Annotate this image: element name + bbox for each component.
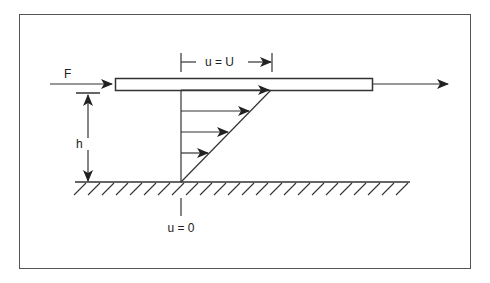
diagram-frame bbox=[20, 15, 471, 269]
diagram-canvas: F h u = U bbox=[0, 0, 490, 283]
h-label: h bbox=[76, 137, 83, 151]
velocity-profile bbox=[181, 90, 271, 182]
moving-plate bbox=[116, 79, 373, 91]
force-label: F bbox=[64, 67, 71, 81]
top-velocity-label: u = U bbox=[205, 55, 234, 69]
bottom-velocity-label: u = 0 bbox=[167, 221, 194, 235]
fixed-wall bbox=[74, 182, 410, 195]
couette-flow-diagram: F h u = U bbox=[0, 0, 490, 283]
